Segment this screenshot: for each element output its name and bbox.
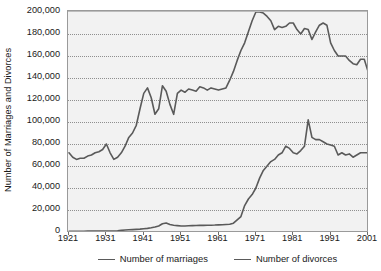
y-tick-label: 180,000 — [27, 28, 60, 37]
x-tick-label: 1931 — [95, 234, 115, 243]
series-layer — [68, 11, 368, 232]
y-tick-label: 40,000 — [32, 182, 60, 191]
x-tick-label: 1951 — [170, 234, 190, 243]
x-tick-label: 1921 — [58, 234, 78, 243]
line-swatch-divorces — [234, 259, 251, 260]
x-tick-label: 1971 — [245, 234, 265, 243]
y-tick-label: 60,000 — [32, 160, 60, 169]
y-tick-label: 200,000 — [27, 6, 60, 15]
plot-area — [67, 10, 368, 232]
y-axis-title-text: Number of Marriages and Divorces — [3, 48, 13, 192]
x-tick-label: 1991 — [319, 234, 339, 243]
y-axis-title: Number of Marriages and Divorces — [0, 0, 16, 240]
legend-label: Number of divorces — [256, 254, 337, 263]
legend-entry: Number of marriages — [98, 254, 208, 263]
x-tick-label: 1941 — [133, 234, 153, 243]
y-tick-label: 140,000 — [27, 72, 60, 81]
y-tick-label: 100,000 — [27, 116, 60, 125]
y-tick-label: 20,000 — [32, 204, 60, 213]
x-tick-label: 2001 — [357, 234, 377, 243]
legend-entry: Number of divorces — [234, 254, 337, 263]
line-chart: Number of Marriages and Divorces 020,000… — [0, 0, 381, 271]
x-tick-label: 1981 — [282, 234, 302, 243]
series-line — [69, 120, 368, 232]
x-axis-tick-labels: 192119311941195119611971198119912001 — [67, 234, 368, 250]
y-axis-tick-labels: 020,00040,00060,00080,000100,000120,0001… — [16, 0, 64, 240]
y-tick-label: 160,000 — [27, 50, 60, 59]
series-line — [69, 12, 368, 159]
y-tick-label: 120,000 — [27, 94, 60, 103]
y-tick-label: 80,000 — [32, 138, 60, 147]
chart-legend: Number of marriagesNumber of divorces — [67, 251, 368, 267]
line-swatch-marriages — [98, 259, 115, 260]
x-tick-label: 1961 — [207, 234, 227, 243]
legend-label: Number of marriages — [120, 254, 208, 263]
